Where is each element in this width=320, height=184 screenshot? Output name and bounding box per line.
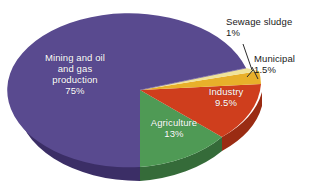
pie-chart: Mining and oil and gas production 75% Ag…	[0, 0, 320, 184]
slice-label-municipal: Municipal 1.5%	[254, 53, 318, 75]
slice-label-sewage-sludge: Sewage sludge 1%	[226, 16, 318, 38]
